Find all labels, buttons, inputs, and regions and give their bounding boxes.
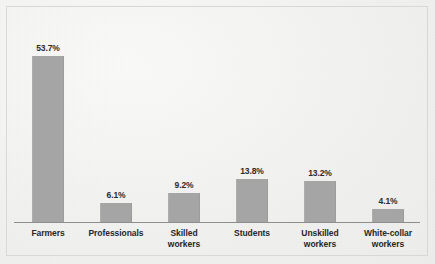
bar-group-students: 13.8% (218, 0, 286, 264)
plot-area: 53.7% 6.1% 9.2% 13.8% 13.2% 4.1% (0, 0, 435, 264)
bar-value-white-collar-workers: 4.1% (379, 196, 398, 206)
bar-skilled-workers (168, 193, 200, 222)
x-axis-label-skilled-workers-line2: workers (141, 239, 227, 250)
bar-professionals (100, 203, 132, 222)
bar-students (236, 179, 268, 222)
bar-white-collar-workers (372, 209, 404, 222)
bar-chart-figure: 53.7% 6.1% 9.2% 13.8% 13.2% 4.1% (0, 0, 435, 264)
bar-group-white-collar-workers: 4.1% (354, 0, 422, 264)
x-axis-label-white-collar-workers-line1: White-collar (345, 228, 431, 239)
x-axis-label-white-collar-workers: White-collar workers (345, 228, 431, 250)
bar-group-skilled-workers: 9.2% (150, 0, 218, 264)
bar-value-unskilled-workers: 13.2% (308, 168, 332, 178)
bar-value-farmers: 53.7% (36, 43, 60, 53)
x-axis-line (14, 222, 420, 223)
bar-group-unskilled-workers: 13.2% (286, 0, 354, 264)
bar-value-professionals: 6.1% (107, 190, 126, 200)
bar-group-professionals: 6.1% (82, 0, 150, 264)
bar-group-farmers: 53.7% (14, 0, 82, 264)
bar-farmers (32, 56, 64, 222)
x-axis-label-white-collar-workers-line2: workers (345, 239, 431, 250)
bar-value-skilled-workers: 9.2% (175, 180, 194, 190)
bar-value-students: 13.8% (240, 166, 264, 176)
bar-unskilled-workers (304, 181, 336, 222)
